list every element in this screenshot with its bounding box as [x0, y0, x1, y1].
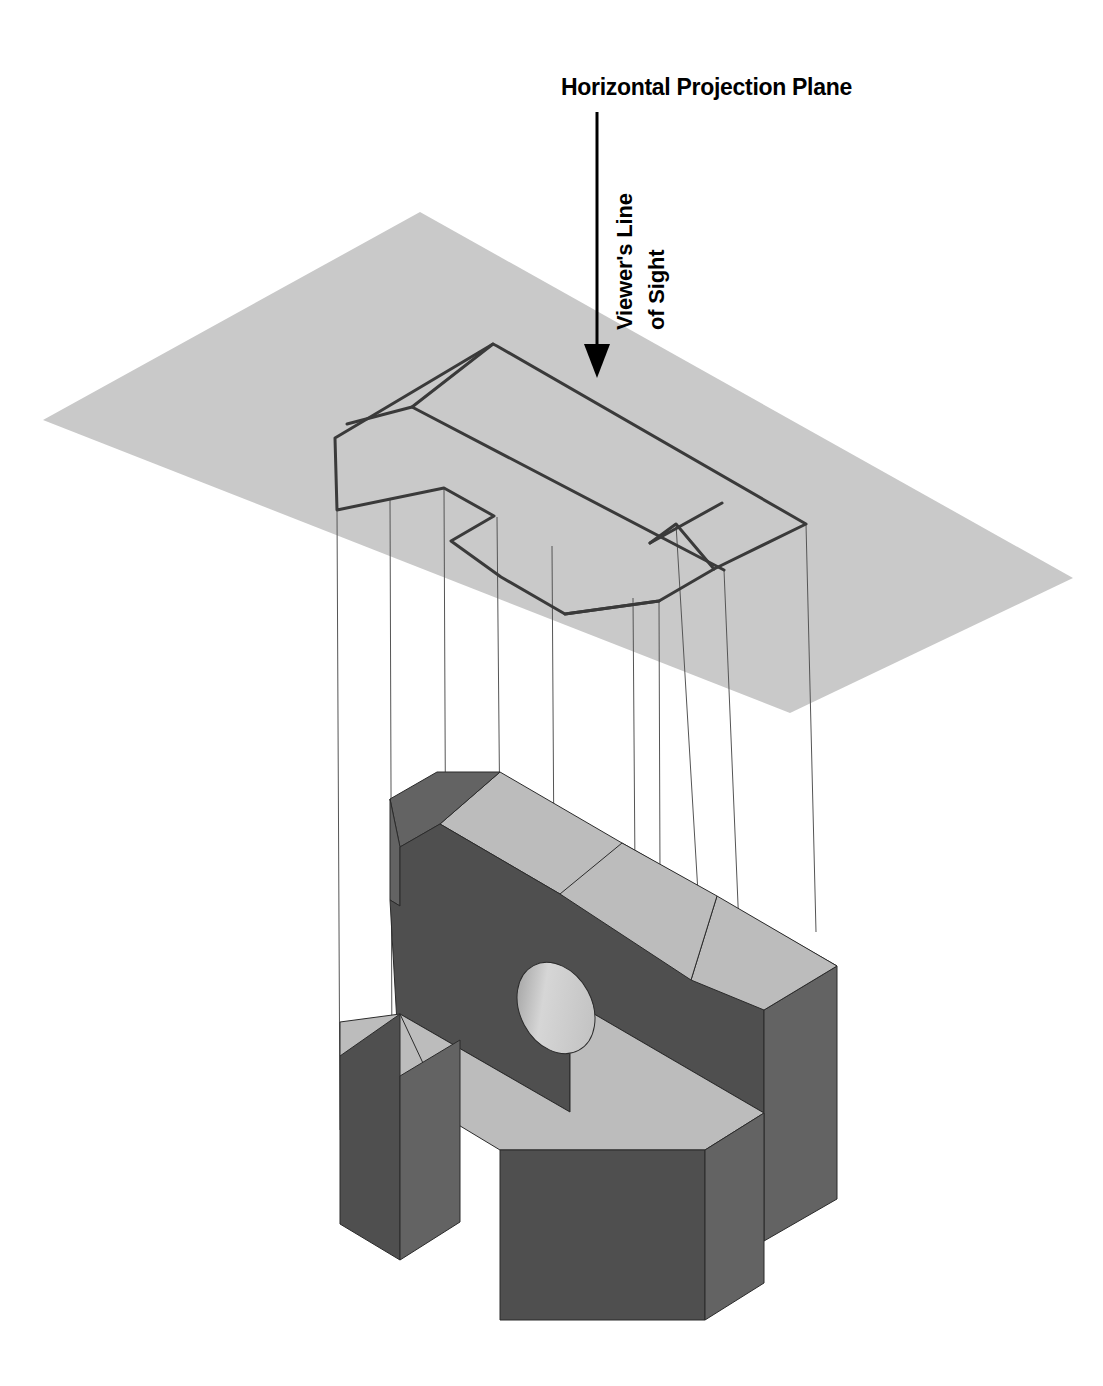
base-front-face	[340, 1014, 400, 1260]
viewers-line-label-1: Viewer's Line	[612, 193, 638, 330]
projection-diagram-svg	[0, 0, 1103, 1386]
projection-line	[390, 498, 392, 1072]
lower-block-side	[705, 1113, 764, 1320]
lower-block-front	[500, 1150, 705, 1320]
isometric-solid-object	[340, 772, 837, 1320]
right-side-face	[764, 966, 837, 1241]
diagram-canvas: Horizontal Projection Plane Viewer's Lin…	[0, 0, 1103, 1386]
viewers-line-label-2: of Sight	[644, 250, 670, 330]
page-title: Horizontal Projection Plane	[561, 74, 852, 101]
horizontal-projection-plane	[43, 212, 1073, 713]
base-left-face	[400, 1040, 460, 1260]
